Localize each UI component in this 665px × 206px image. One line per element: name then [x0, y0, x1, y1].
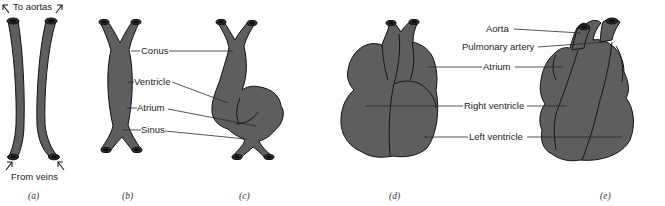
adult-heart-left: [540, 20, 634, 160]
panel-d: (d): [341, 19, 438, 202]
arrow-up-right-icon: [56, 5, 62, 13]
label-from-veins: From veins: [11, 171, 58, 182]
caption-b: (b): [122, 191, 133, 202]
label-aorta: Aorta: [486, 23, 509, 34]
panel-c: (c): [212, 19, 283, 202]
label-atrium-early: Atrium: [137, 102, 165, 113]
arrow-from-vein-left-icon: [6, 162, 12, 170]
label-ventricle: Ventricle: [134, 76, 170, 87]
caption-d: (d): [389, 191, 400, 202]
label-atrium-mature: Atrium: [483, 61, 511, 72]
label-left-ventricle: Left ventricle: [469, 131, 523, 142]
arrow-up-left-icon: [3, 5, 9, 13]
caption-a: (a): [28, 191, 39, 202]
label-right-ventricle: Right ventricle: [464, 100, 524, 111]
caption-e: (e): [600, 191, 611, 202]
left-endocardial-tube: [8, 21, 24, 158]
arrow-from-vein-right-icon: [58, 162, 64, 170]
caption-c: (c): [239, 191, 250, 202]
heart-development-figure: To aortas From veins (a) (b): [0, 0, 665, 206]
right-endocardial-tube: [37, 21, 58, 157]
panel-a: To aortas From veins (a): [3, 1, 64, 202]
panel-b: (b): [99, 19, 142, 202]
label-conus: Conus: [141, 45, 169, 56]
label-pulmonary-artery: Pulmonary artery: [462, 41, 535, 52]
label-to-aortas: To aortas: [13, 1, 52, 12]
label-sinus: Sinus: [141, 124, 165, 135]
looped-heart: [212, 22, 283, 158]
